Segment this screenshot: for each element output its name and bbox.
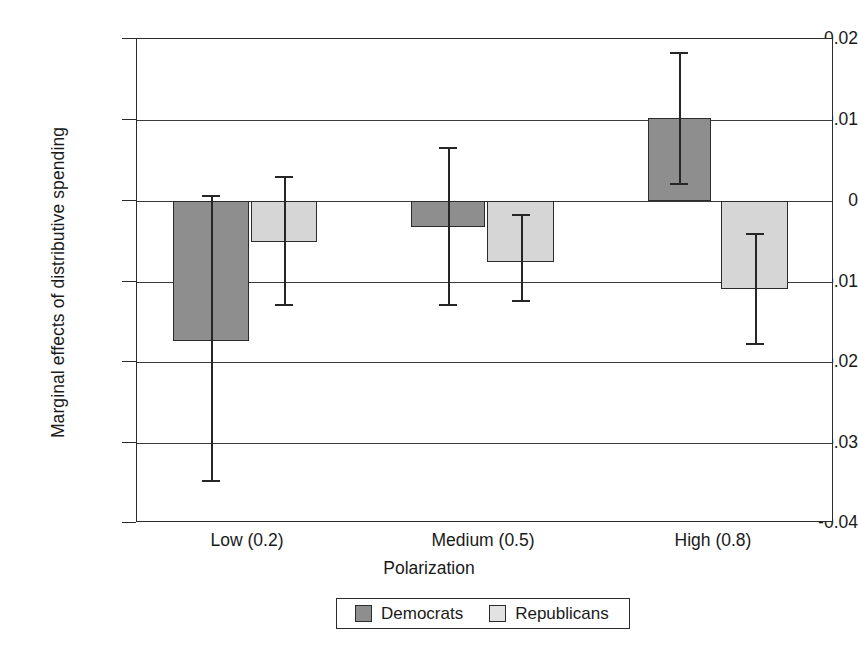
errorbar-cap-bottom-democrats-high <box>670 183 688 185</box>
errorbar-democrats-low <box>211 195 213 480</box>
y-tick-mark-2 <box>122 200 136 201</box>
y-tick-mark-3 <box>122 281 136 282</box>
chart-figure: Marginal effects of distributive spendin… <box>0 0 858 663</box>
x-tick-label-medium: Medium (0.5) <box>431 530 534 551</box>
errorbar-cap-bottom-republicans-medium <box>512 300 530 302</box>
errorbar-cap-top-republicans-low <box>275 176 293 178</box>
errorbar-cap-bottom-democrats-medium <box>439 304 457 306</box>
errorbar-cap-top-democrats-low <box>202 195 220 197</box>
gridline-0.01 <box>137 120 832 121</box>
errorbar-cap-bottom-democrats-low <box>202 480 220 482</box>
errorbar-republicans-high <box>755 233 757 343</box>
y-tick-mark-5 <box>122 442 136 443</box>
x-tick-label-high: High (0.8) <box>675 530 752 551</box>
y-axis-title: Marginal effects of distributive spendin… <box>48 73 69 493</box>
errorbar-republicans-low <box>284 176 286 304</box>
y-tick-mark-4 <box>122 361 136 362</box>
legend-label-democrats: Democrats <box>381 605 463 622</box>
x-axis-title: Polarization <box>0 558 858 579</box>
legend-entry-republicans: Republicans <box>489 605 609 622</box>
legend-swatch-republicans-icon <box>489 605 506 622</box>
errorbar-cap-top-republicans-high <box>746 233 764 235</box>
errorbar-democrats-high <box>679 52 681 183</box>
chart-legend: Democrats Republicans <box>336 598 630 629</box>
gridline--0.02 <box>137 362 832 363</box>
errorbar-cap-bottom-republicans-high <box>746 343 764 345</box>
legend-entry-democrats: Democrats <box>355 605 463 622</box>
errorbar-cap-bottom-republicans-low <box>275 304 293 306</box>
plot-area <box>136 38 833 522</box>
y-tick-mark-6 <box>122 522 136 523</box>
gridline--0.03 <box>137 443 832 444</box>
errorbar-cap-top-republicans-medium <box>512 214 530 216</box>
errorbar-cap-top-democrats-medium <box>439 147 457 149</box>
legend-swatch-democrats-icon <box>355 605 372 622</box>
errorbar-democrats-medium <box>448 147 450 304</box>
x-tick-label-low: Low (0.2) <box>211 530 284 551</box>
legend-label-republicans: Republicans <box>515 605 609 622</box>
errorbar-cap-top-democrats-high <box>670 52 688 54</box>
errorbar-republicans-medium <box>521 214 523 300</box>
y-tick-mark-0 <box>122 38 136 39</box>
y-tick-mark-1 <box>122 119 136 120</box>
